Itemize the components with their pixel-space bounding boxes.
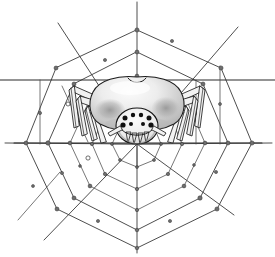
web-node — [119, 159, 122, 162]
web-node — [226, 141, 230, 145]
web-node — [135, 50, 139, 54]
web-node — [32, 185, 35, 188]
web-node — [72, 196, 76, 200]
web-node — [60, 171, 63, 174]
web-node — [135, 28, 139, 32]
web-node — [168, 219, 171, 222]
eye-spot — [141, 122, 145, 126]
web-node — [135, 228, 139, 232]
web-node — [24, 141, 28, 145]
eye-spot — [131, 113, 135, 117]
web-node — [170, 39, 173, 42]
web-node — [153, 159, 156, 162]
spider-on-web-drawing — [0, 0, 275, 257]
abdomen-right-shading — [152, 97, 180, 119]
web-node — [103, 172, 106, 175]
web-node — [203, 141, 207, 145]
web-node — [166, 172, 169, 175]
eye-spot — [120, 122, 125, 127]
web-node — [68, 141, 72, 145]
web-node — [54, 66, 58, 70]
web-node — [90, 142, 93, 145]
web-node — [46, 141, 50, 145]
web-node — [135, 208, 138, 211]
web-node — [193, 164, 196, 167]
eye-spot — [147, 116, 152, 121]
web-node — [55, 207, 59, 211]
web-node — [66, 102, 70, 106]
eye-spot — [139, 113, 143, 117]
spider-illustration: Spider on Orb Web spider black and white… — [0, 0, 275, 257]
web-node — [214, 170, 217, 173]
abdomen-highlight — [110, 81, 150, 95]
web-node — [182, 184, 186, 188]
web-node — [135, 246, 139, 250]
web-node — [103, 58, 106, 61]
web-node — [198, 196, 202, 200]
eye-spot — [123, 116, 128, 121]
web-node — [79, 165, 82, 168]
eye-spot — [129, 122, 133, 126]
web-node — [86, 156, 90, 160]
web-node — [180, 142, 183, 145]
web-node — [88, 184, 92, 188]
web-node — [135, 187, 138, 190]
spider-head — [116, 108, 158, 144]
web-node — [201, 82, 205, 86]
web-node — [215, 207, 219, 211]
web-node — [96, 219, 99, 222]
web-node — [219, 66, 223, 70]
web-node — [219, 103, 222, 106]
web-node — [72, 82, 76, 86]
web-node — [250, 141, 254, 145]
web-node — [38, 111, 41, 114]
eye-spot — [148, 122, 153, 127]
